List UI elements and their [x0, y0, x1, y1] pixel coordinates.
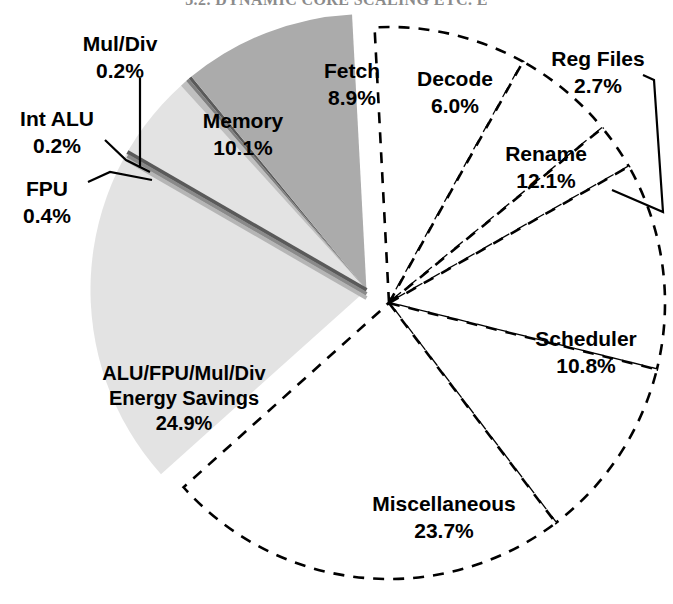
pie-chart-figure: 3.2. DYNAMIC CORE SCALING ETC. E Fetch8.… [0, 0, 673, 604]
pie-label-int-alu: Int ALU0.2% [20, 107, 94, 157]
pie-label-fpu: FPU0.4% [23, 177, 71, 227]
pie-chart-svg: Fetch8.9%Decode6.0%Reg Files2.7%Rename12… [0, 0, 673, 604]
pie-label-mul-div: Mul/Div0.2% [83, 32, 158, 82]
